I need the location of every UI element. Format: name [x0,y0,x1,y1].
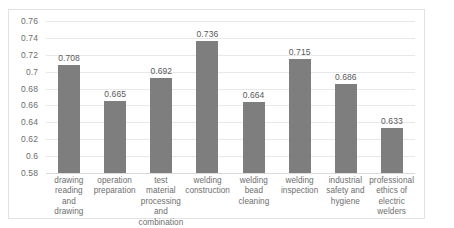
y-axis-tick-label: 0.72 [21,50,38,60]
bar[interactable]: 0.686 [335,84,357,174]
x-axis-category-label: welding construction [184,176,231,216]
bar[interactable]: 0.633 [381,128,403,173]
y-axis-tick-label: 0.64 [21,117,38,127]
bar[interactable]: 0.665 [104,101,126,173]
x-axis-category-label: drawing reading and drawing [46,176,92,216]
plot-area: 0.7080.6650.6920.7360.6640.7150.6860.633 [46,21,415,173]
x-axis-category-label: test material processing and combination [138,176,185,216]
x-axis-category-label: welding bead cleaning [231,176,277,216]
bar-series: 0.7080.6650.6920.7360.6640.7150.6860.633 [46,21,415,173]
bar-value-label: 0.708 [58,53,80,63]
bar-value-label: 0.665 [104,89,126,99]
bar-value-label: 0.692 [150,66,172,76]
x-axis-category-label: operation preparation [92,176,138,216]
bar-value-label: 0.715 [289,47,311,57]
bar-value-label: 0.664 [243,90,265,100]
x-axis-category-label: welding inspection [277,176,323,216]
bar[interactable]: 0.736 [196,41,218,173]
y-axis-tick-labels: 0.760.740.720.70.680.660.640.620.60.58 [9,21,42,173]
x-axis-category-label: industrial safety and hygiene [323,176,369,216]
bar-slot: 0.665 [92,21,138,173]
y-axis-tick-label: 0.7 [26,67,38,77]
bar-slot: 0.686 [323,21,369,173]
bar-value-label: 0.633 [381,116,403,126]
y-axis-tick-label: 0.68 [21,84,38,94]
gridline [46,173,415,174]
bar-slot: 0.664 [231,21,277,173]
y-axis-tick-label: 0.74 [21,33,38,43]
bar[interactable]: 0.715 [289,59,311,173]
y-axis-tick-label: 0.6 [26,151,38,161]
bar-slot: 0.736 [184,21,230,173]
bar[interactable]: 0.708 [58,65,80,173]
bar-value-label: 0.686 [335,72,357,82]
bar-slot: 0.715 [277,21,323,173]
y-axis-tick-label: 0.66 [21,100,38,110]
bar-slot: 0.633 [369,21,415,173]
y-axis-tick-label: 0.58 [21,168,38,178]
bar[interactable]: 0.664 [243,102,265,173]
bar-value-label: 0.736 [197,29,219,39]
bar-slot: 0.692 [138,21,184,173]
y-axis-tick-label: 0.76 [21,16,38,26]
y-axis-tick-label: 0.62 [21,134,38,144]
bar-chart: 0.760.740.720.70.680.660.640.620.60.58 0… [8,9,425,219]
bar[interactable]: 0.692 [150,78,172,173]
bar-slot: 0.708 [46,21,92,173]
x-axis-category-label: professional ethics of electric welders [368,176,415,216]
x-axis-category-labels: drawing reading and drawingoperation pre… [46,176,415,216]
